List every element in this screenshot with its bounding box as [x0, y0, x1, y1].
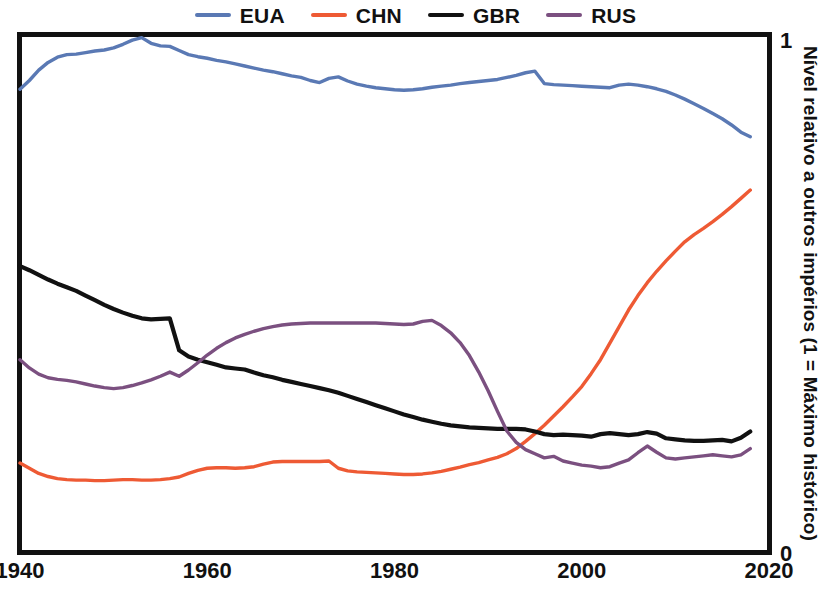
y-tick-max: 1 — [780, 30, 792, 52]
x-tick-1960: 1960 — [183, 560, 232, 582]
y-axis-title: Nível relativo a outros impérios (1 = Má… — [795, 32, 825, 555]
chart-root: EUA CHN GBR RUS 1940 1960 1980 2000 2020… — [0, 0, 831, 590]
series-line-eua — [20, 38, 750, 137]
x-axis-ticks: 1940 1960 1980 2000 2020 — [0, 560, 831, 590]
series-line-rus — [20, 320, 750, 467]
series-canvas — [17, 32, 772, 555]
x-tick-1940: 1940 — [0, 560, 44, 582]
x-tick-1980: 1980 — [370, 560, 419, 582]
line-chart-svg — [17, 32, 772, 555]
plot-area — [0, 0, 831, 590]
y-tick-min: 0 — [780, 543, 792, 565]
series-line-chn — [20, 190, 750, 481]
x-tick-2000: 2000 — [557, 560, 606, 582]
